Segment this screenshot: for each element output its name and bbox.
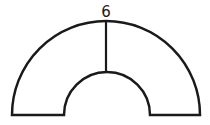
thickness-label: 6 xyxy=(101,3,111,21)
half-annulus-diagram: 6 xyxy=(0,0,210,125)
